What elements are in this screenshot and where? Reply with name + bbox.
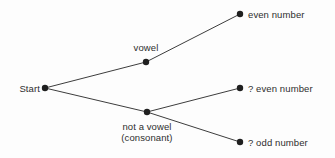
tree-node-label-consonant: not a vowel (consonant): [104, 121, 190, 143]
tree-node-label-start: Start: [8, 83, 40, 94]
tree-node-dot-vowel[interactable]: [143, 59, 149, 65]
tree-edge-start-to-consonant: [45, 88, 147, 112]
tree-node-dot-q-odd-number[interactable]: [237, 139, 243, 145]
tree-edge-start-to-vowel: [45, 62, 146, 88]
tree-node-label-q-odd-number: ? odd number: [248, 137, 332, 148]
tree-node-dot-q-even-number[interactable]: [237, 85, 243, 91]
tree-edge-consonant-to-q-even-number: [147, 88, 240, 112]
tree-diagram-canvas: Startvowelnot a vowel (consonant)even nu…: [0, 0, 335, 158]
tree-node-dot-consonant[interactable]: [144, 109, 150, 115]
tree-node-dot-even-number[interactable]: [237, 11, 243, 17]
tree-node-dot-start[interactable]: [42, 85, 48, 91]
tree-node-label-even-number: even number: [248, 9, 328, 20]
tree-node-label-vowel: vowel: [122, 42, 170, 53]
tree-edge-vowel-to-even-number: [146, 14, 240, 62]
tree-node-label-q-even-number: ? even number: [248, 83, 332, 94]
